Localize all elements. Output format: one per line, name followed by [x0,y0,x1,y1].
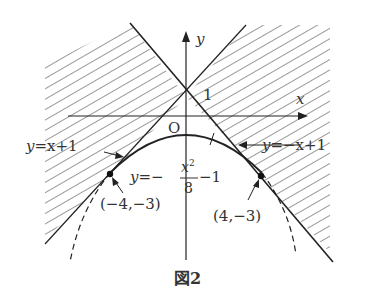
diagram-canvas: y x 1 O y=x+1 y=−x+1 y=− x2 8 −1 (−4,−3)… [0,0,373,302]
parabola-label-lhs: y=− [129,168,164,186]
point-left-label: (−4,−3) [100,195,161,213]
parabola-label-tail: −1 [199,168,221,186]
figure-caption: 図2 [174,269,201,288]
y-axis-arrow-icon [182,31,190,42]
y-axis-label: y [195,30,205,48]
line1-label: y=x+1 [25,137,78,155]
point-right-label: (4,−3) [213,207,261,225]
y-tick-1-label: 1 [203,86,213,104]
parabola-label-den: 8 [184,180,193,196]
point-left [107,171,113,177]
x-axis-label: x [296,90,305,108]
point-right [258,173,264,179]
origin-label: O [168,119,180,137]
line2-label: y=−x+1 [261,136,326,154]
